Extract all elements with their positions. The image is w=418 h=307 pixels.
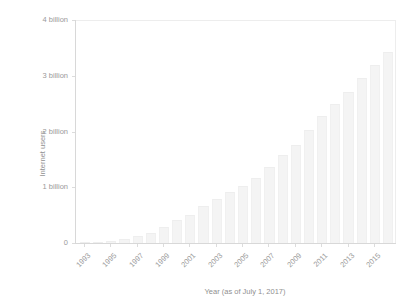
x-tick-mark xyxy=(242,244,243,247)
y-axis-line xyxy=(75,20,76,244)
x-tick-label: 2013 xyxy=(330,251,356,277)
x-tick-label: 2005 xyxy=(224,251,250,277)
x-tick-mark xyxy=(137,244,138,247)
bar xyxy=(225,192,235,243)
x-tick-label: 2003 xyxy=(198,251,224,277)
bar xyxy=(304,130,314,243)
bar xyxy=(278,155,288,243)
bar xyxy=(238,186,248,243)
y-tick-label: 0 xyxy=(0,238,68,247)
bar xyxy=(185,215,195,243)
x-tick-mark xyxy=(295,244,296,247)
x-axis-title: Year (as of July 1, 2017) xyxy=(160,287,330,296)
y-tick-label: 1 billion xyxy=(0,182,68,191)
bar xyxy=(146,233,156,243)
x-tick-label: 2009 xyxy=(277,251,303,277)
y-tick-mark xyxy=(72,132,75,133)
x-tick-label: 2015 xyxy=(356,251,382,277)
bar xyxy=(172,220,182,243)
x-tick-mark xyxy=(84,244,85,247)
x-tick-mark xyxy=(321,244,322,247)
bar xyxy=(251,178,261,243)
bar xyxy=(159,227,169,243)
bar xyxy=(330,104,340,243)
x-tick-label: 2001 xyxy=(172,251,198,277)
x-tick-mark xyxy=(163,244,164,247)
x-tick-mark xyxy=(216,244,217,247)
x-tick-mark xyxy=(348,244,349,247)
bar-chart: 01 billion2 billion3 billion4 billion 19… xyxy=(0,0,418,307)
y-tick-label: 2 billion xyxy=(0,127,68,136)
x-tick-label: 1999 xyxy=(145,251,171,277)
x-tick-label: 2007 xyxy=(251,251,277,277)
bar xyxy=(343,92,353,243)
bar xyxy=(212,199,222,243)
x-tick-mark xyxy=(374,244,375,247)
y-tick-label: 3 billion xyxy=(0,71,68,80)
bar xyxy=(264,167,274,243)
x-tick-label: 1995 xyxy=(92,251,118,277)
y-tick-mark xyxy=(72,187,75,188)
x-tick-label: 1997 xyxy=(119,251,145,277)
x-tick-label: 2011 xyxy=(303,251,329,277)
bars-layer xyxy=(76,20,395,243)
y-tick-mark xyxy=(72,20,75,21)
bar xyxy=(133,236,143,243)
x-tick-mark xyxy=(268,244,269,247)
bar xyxy=(198,206,208,243)
y-tick-mark xyxy=(72,243,75,244)
plot-frame-right xyxy=(395,20,396,244)
x-tick-mark xyxy=(110,244,111,247)
x-tick-label: 1993 xyxy=(66,251,92,277)
bar xyxy=(357,78,367,243)
bar xyxy=(370,65,380,243)
bar xyxy=(383,52,393,243)
x-tick-mark xyxy=(189,244,190,247)
bar xyxy=(317,116,327,243)
bar xyxy=(291,145,301,243)
y-tick-label: 4 billion xyxy=(0,15,68,24)
y-axis-title: Internet users xyxy=(38,87,47,177)
y-tick-mark xyxy=(72,76,75,77)
